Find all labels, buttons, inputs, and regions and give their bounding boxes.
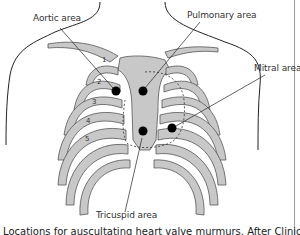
mitral-marker	[168, 124, 177, 133]
chest-illustration: 1 2 3 4 5	[0, 0, 300, 235]
rib-number-1: 1	[102, 56, 106, 64]
rib-number-2: 2	[97, 78, 101, 86]
rib-number-4: 4	[86, 117, 91, 125]
mitral-area-label: Mitral area	[254, 63, 300, 73]
aortic-marker	[112, 87, 121, 96]
rib-number-5: 5	[85, 135, 89, 143]
left-clavicle	[48, 42, 118, 62]
pulmonary-area-label: Pulmonary area	[187, 10, 257, 20]
aortic-area-label: Aortic area	[33, 13, 81, 23]
rib-number-3: 3	[92, 98, 96, 106]
figure-caption: Locations for auscultating heart valve m…	[3, 226, 300, 235]
right-clavicle	[165, 47, 218, 58]
right-ribs	[154, 66, 226, 215]
tricuspid-area-label: Tricuspid area	[96, 210, 157, 220]
pulmonary-marker	[139, 87, 148, 96]
tricuspid-marker	[139, 127, 148, 136]
